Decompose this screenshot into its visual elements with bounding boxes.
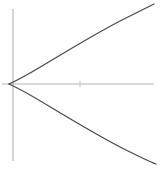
parabola-figure: [0, 0, 160, 172]
plot-canvas: [0, 0, 160, 172]
